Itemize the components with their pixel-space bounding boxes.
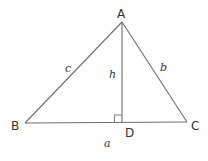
vertex-label-a: A	[117, 7, 126, 21]
vertex-label-d: D	[125, 126, 134, 140]
side-label-b: b	[160, 61, 167, 74]
vertex-label-b: B	[11, 119, 19, 133]
right-angle-marker-icon	[115, 115, 123, 123]
side-label-c: c	[65, 62, 71, 75]
vertex-label-c: C	[191, 119, 199, 133]
side-label-h: h	[109, 68, 116, 81]
side-b-line	[122, 22, 187, 122]
side-label-a: a	[104, 137, 111, 150]
side-a-line	[25, 122, 187, 123]
side-c-line	[25, 22, 122, 123]
triangle-diagram: A B C D c h b a	[0, 0, 208, 161]
